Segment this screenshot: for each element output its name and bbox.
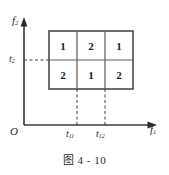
x-tick-1-label-subscript: 11 xyxy=(69,133,75,139)
figure-caption: 图 4 - 10 xyxy=(0,151,169,167)
grid-cell-r0c2: 1 xyxy=(111,41,127,52)
grid-cell-r1c0: 2 xyxy=(55,70,71,81)
origin-label: O xyxy=(10,126,18,137)
grid-cell-r0c1: 2 xyxy=(83,41,99,52)
x-axis-label-subscript: 1 xyxy=(153,128,156,135)
x-tick-label-t11: t11 xyxy=(66,129,74,139)
y-axis-label-subscript: 2 xyxy=(15,19,18,26)
figure-container: f2 f1 O t2 t11 t12 1 2 1 2 1 2 图 4 - 10 xyxy=(0,0,169,175)
y-tick-label-subscript: 2 xyxy=(12,58,15,64)
y-axis-arrowhead xyxy=(21,17,28,27)
grid-cell-r0c0: 1 xyxy=(55,41,71,52)
y-tick-label-t2: t2 xyxy=(9,54,15,64)
grid-cell-r1c1: 1 xyxy=(83,70,99,81)
grid-cell-r1c2: 2 xyxy=(111,70,127,81)
x-tick-2-label-subscript: 12 xyxy=(99,133,105,139)
x-tick-label-t12: t12 xyxy=(96,129,105,139)
x-axis-label: f1 xyxy=(150,124,156,135)
y-axis-label: f2 xyxy=(12,15,18,26)
